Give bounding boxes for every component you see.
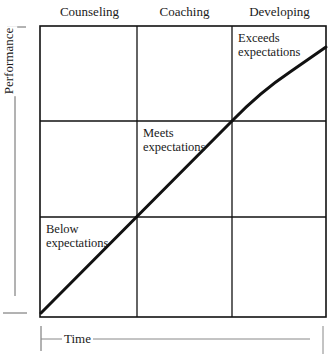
y-axis-label: Performance xyxy=(1,26,17,96)
label-below-expectations: Below expectations xyxy=(46,222,108,250)
label-exceeds-expectations: Exceeds expectations xyxy=(238,31,300,59)
x-axis-label: Time xyxy=(62,331,93,347)
column-header-coaching: Coaching xyxy=(137,4,232,20)
label-meets-expectations: Meets expectations xyxy=(143,126,205,154)
column-header-counseling: Counseling xyxy=(42,4,137,20)
performance-curve xyxy=(41,47,326,313)
column-header-developing: Developing xyxy=(232,4,327,20)
